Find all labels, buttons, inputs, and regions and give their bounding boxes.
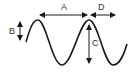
- wave-diagram: A B C D: [0, 0, 135, 73]
- sine-wave: [26, 20, 127, 65]
- label-d: D: [98, 2, 105, 12]
- label-c: C: [92, 38, 99, 48]
- label-a: A: [61, 2, 67, 12]
- label-b: B: [9, 26, 15, 36]
